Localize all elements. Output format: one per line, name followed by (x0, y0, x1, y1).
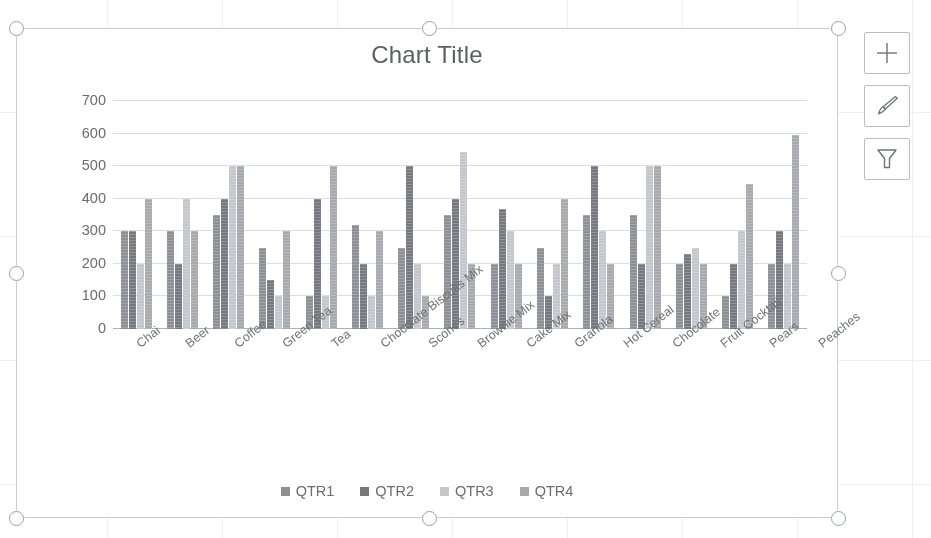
bar-group (344, 101, 390, 329)
selection-handle-top-center[interactable] (422, 21, 437, 36)
chart-object[interactable]: Chart Title 0100200300400500600700 ChaiB… (16, 28, 838, 518)
selection-handle-top-right[interactable] (831, 21, 846, 36)
bar-group (206, 101, 252, 329)
bar-qtr4[interactable] (191, 231, 198, 329)
bar-qtr2[interactable] (452, 199, 459, 329)
x-axis-label-cell: Scones (405, 335, 454, 415)
bar-qtr2[interactable] (776, 231, 783, 329)
bar-qtr4[interactable] (376, 231, 383, 329)
bar-qtr4[interactable] (145, 199, 152, 329)
bar-qtr1[interactable] (583, 215, 590, 329)
legend-swatch (520, 487, 529, 496)
chart-elements-button[interactable] (864, 32, 910, 74)
bar-qtr1[interactable] (352, 225, 359, 329)
y-axis-tick-label: 100 (82, 287, 106, 303)
plot-canvas: 0100200300400500600700 (113, 101, 807, 329)
chart-title[interactable]: Chart Title (17, 41, 837, 69)
bar-qtr2[interactable] (684, 254, 691, 329)
bar-qtr4[interactable] (283, 231, 290, 329)
bar-qtr3[interactable] (646, 166, 653, 329)
x-axis-label-cell: Peaches (794, 335, 843, 415)
legend-item-qtr3[interactable]: QTR3 (440, 483, 494, 499)
chart-styles-button[interactable] (864, 85, 910, 127)
selection-handle-top-left[interactable] (9, 21, 24, 36)
selection-handle-bottom-center[interactable] (422, 511, 437, 526)
bar-qtr1[interactable] (491, 264, 498, 329)
x-axis-label-cell: Granola (551, 335, 600, 415)
bar-qtr4[interactable] (330, 166, 337, 329)
legend-item-qtr4[interactable]: QTR4 (520, 483, 574, 499)
selection-handle-bottom-left[interactable] (9, 511, 24, 526)
bar-qtr1[interactable] (213, 215, 220, 329)
legend-label: QTR1 (296, 483, 335, 499)
bar-qtr1[interactable] (398, 248, 405, 329)
bar-groups (113, 101, 807, 329)
bar-qtr2[interactable] (221, 199, 228, 329)
y-axis-tick-label: 200 (82, 255, 106, 271)
legend-label: QTR3 (455, 483, 494, 499)
selection-handle-middle-left[interactable] (9, 266, 24, 281)
funnel-icon (874, 146, 900, 172)
selection-handle-middle-right[interactable] (831, 266, 846, 281)
bar-qtr3[interactable] (738, 231, 745, 329)
bar-qtr1[interactable] (167, 231, 174, 329)
chart-tool-buttons (864, 32, 910, 180)
bar-qtr1[interactable] (722, 296, 729, 329)
bar-qtr2[interactable] (267, 280, 274, 329)
bar-qtr1[interactable] (537, 248, 544, 329)
bar-group (113, 101, 159, 329)
legend-label: QTR2 (375, 483, 414, 499)
bar-qtr2[interactable] (638, 264, 645, 329)
bar-qtr2[interactable] (499, 209, 506, 330)
bar-qtr2[interactable] (129, 231, 136, 329)
bar-qtr3[interactable] (137, 264, 144, 329)
bar-qtr2[interactable] (406, 166, 413, 329)
legend-label: QTR4 (535, 483, 574, 499)
bar-group (761, 101, 807, 329)
paintbrush-icon (873, 92, 901, 120)
bar-qtr4[interactable] (237, 166, 244, 329)
bar-qtr2[interactable] (175, 264, 182, 329)
legend-item-qtr1[interactable]: QTR1 (281, 483, 335, 499)
bar-qtr2[interactable] (730, 264, 737, 329)
bar-qtr2[interactable] (591, 166, 598, 329)
bar-qtr2[interactable] (360, 264, 367, 329)
bar-qtr3[interactable] (275, 296, 282, 329)
x-axis-label-cell: Beer (162, 335, 211, 415)
bar-qtr4[interactable] (746, 184, 753, 329)
legend-swatch (440, 487, 449, 496)
y-axis-tick-label: 500 (82, 157, 106, 173)
bar-qtr3[interactable] (229, 166, 236, 329)
bar-qtr3[interactable] (183, 199, 190, 329)
legend-item-qtr2[interactable]: QTR2 (360, 483, 414, 499)
bar-qtr1[interactable] (444, 215, 451, 329)
bar-group (576, 101, 622, 329)
bar-group (159, 101, 205, 329)
bar-qtr1[interactable] (676, 264, 683, 329)
x-axis-labels[interactable]: ChaiBeerCoffeeGreen TeaTeaChocolate Bisc… (113, 335, 843, 415)
x-axis-label-cell: Brownie Mix (454, 335, 503, 415)
bar-group (298, 101, 344, 329)
bar-qtr1[interactable] (630, 215, 637, 329)
y-axis-tick-label: 300 (82, 222, 106, 238)
y-axis-tick-label: 400 (82, 190, 106, 206)
x-axis-label-cell: Cake Mix (502, 335, 551, 415)
chart-legend[interactable]: QTR1QTR2QTR3QTR4 (17, 483, 837, 499)
y-axis-tick-label: 600 (82, 125, 106, 141)
x-axis-label-cell: Chai (113, 335, 162, 415)
bar-qtr4[interactable] (792, 135, 799, 329)
bar-qtr4[interactable] (654, 166, 661, 329)
bar-group (391, 101, 437, 329)
legend-swatch (281, 487, 290, 496)
x-axis-label-cell: Hot Cereal (600, 335, 649, 415)
chart-filters-button[interactable] (864, 138, 910, 180)
bar-group (668, 101, 714, 329)
bar-qtr3[interactable] (784, 264, 791, 329)
bar-qtr3[interactable] (460, 152, 467, 330)
x-axis-label-cell: Fruit Cocktail (697, 335, 746, 415)
selection-handle-bottom-right[interactable] (831, 511, 846, 526)
bar-qtr3[interactable] (368, 296, 375, 329)
bar-group (483, 101, 529, 329)
x-axis-label-cell: Pears (746, 335, 795, 415)
bar-qtr1[interactable] (121, 231, 128, 329)
